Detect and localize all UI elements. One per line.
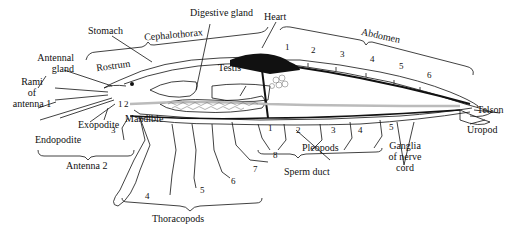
eye [130, 82, 134, 86]
thoracopod-number-7: 7 [253, 164, 258, 174]
thoracopod-number-6: 6 [231, 176, 236, 186]
antenna-1 [55, 88, 108, 100]
antenna2-brace [38, 150, 134, 160]
label-testis: Testis [218, 62, 241, 73]
anatomy-drawing [0, 0, 511, 231]
label-telson: Telson [477, 104, 504, 115]
label-sperm-duct: Sperm duct [284, 166, 330, 177]
abdomen-segment-5: 5 [399, 61, 404, 71]
abdomen-segment-3: 3 [340, 49, 345, 59]
pleopod-number-2: 2 [296, 125, 301, 135]
label-uropod: Uropod [467, 124, 498, 135]
rostrum [104, 80, 126, 88]
thoracopod-8 [232, 122, 268, 162]
thoracopod-number-8: 8 [273, 150, 278, 160]
pleopod-number-4: 4 [358, 125, 363, 135]
thoracopods-brace [122, 198, 262, 211]
pleopod-number-1: 1 [268, 123, 273, 133]
label-digestive-gland: Digestive gland [190, 7, 253, 18]
label-thoracopods: Thoracopods [152, 213, 204, 224]
thoracopod-6 [192, 124, 196, 188]
thoracopod-number-4: 4 [145, 191, 150, 201]
label-heart: Heart [264, 11, 286, 22]
label-antennal-gland: Antennal gland [34, 52, 74, 74]
abdomen-segment-2: 2 [311, 45, 316, 55]
label-pleopods: Pleopods [302, 142, 339, 153]
sternal-artery [262, 70, 268, 118]
pleopod-number-5: 5 [389, 122, 394, 132]
abdomen-segment-6: 6 [427, 70, 432, 80]
label-endopodite: Endopodite [35, 134, 81, 145]
thoracopod-7 [212, 124, 230, 178]
thoracopod-number-2: 2 [124, 99, 129, 109]
abdomen-segment-4: 4 [370, 54, 375, 64]
pleopod-number-3: 3 [331, 125, 336, 135]
label-rami-of-antenna-1: Rami of antenna 1 [8, 76, 56, 109]
pleopod-2 [278, 124, 286, 150]
thoracopod-5 [170, 124, 176, 195]
thoracopod-number-5: 5 [200, 185, 205, 195]
label-stomach: Stomach [88, 25, 123, 36]
thoracopod-number-1: 1 [118, 99, 123, 109]
pleopod-4 [344, 122, 352, 150]
abdomen-segment-1: 1 [285, 42, 290, 52]
thoracopod-number-3: 3 [111, 125, 116, 135]
label-mandible: Mandible [125, 113, 163, 124]
label-antenna-2: Antenna 2 [66, 160, 107, 171]
label-ganglia-of-nerve-cord: Ganglia of nerve cord [380, 140, 430, 173]
crustacean-anatomy-diagram: Stomach Cephalothorax Digestive gland He… [0, 0, 511, 231]
